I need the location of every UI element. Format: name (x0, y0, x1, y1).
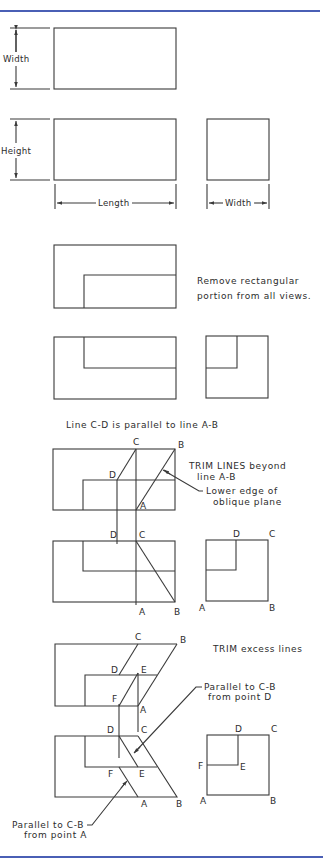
step5-top-point-f: F (112, 694, 117, 704)
step4-top-point-b: B (178, 440, 184, 450)
step4-side-point-d: D (233, 529, 240, 539)
step5-front-point-a: A (141, 799, 148, 809)
step5-note-a-line1: Parallel to C-B (12, 820, 84, 830)
step5-top-point-a: A (140, 705, 147, 715)
step3-top-view (54, 245, 176, 308)
step5-side-view (207, 735, 269, 795)
step4-side-view (206, 540, 268, 601)
step4-front-point-b: B (174, 607, 180, 617)
step5-front-point-b: B (176, 799, 182, 809)
step5-side-point-b: B (270, 796, 276, 806)
width-dimension-label: Width (3, 54, 29, 64)
step5-top-point-d: D (111, 665, 118, 675)
height-dimension-label: Height (1, 146, 32, 156)
step4-top-point-d: D (109, 470, 116, 480)
step4-top-point-c: C (133, 437, 139, 447)
step4-note-edge-line1: Lower edge of (206, 486, 278, 496)
step5-note-a-line2: from point A (24, 830, 87, 840)
step5-note-trim: TRIM excess lines (212, 644, 302, 654)
step5-leader-d (135, 687, 202, 752)
step5-front-view (55, 736, 177, 797)
step5-top-point-b: B (180, 635, 186, 645)
step5-side-point-f: F (198, 761, 203, 771)
step4-side-point-b: B (269, 603, 275, 613)
step5-side-point-a: A (200, 796, 207, 806)
step5-top-point-c: C (135, 632, 141, 642)
step5-leader-a-arrow (121, 781, 127, 788)
step4-note-edge-line2: oblique plane (213, 497, 282, 507)
step4-front-point-d: D (110, 530, 117, 540)
step5-front-point-e: E (139, 769, 145, 779)
step5-top-point-e: E (141, 665, 147, 675)
step5-leader-a (87, 782, 126, 825)
step3-note-line2: portion from all views. (197, 291, 311, 301)
step4-side-point-c: C (269, 529, 275, 539)
step5-note-d-line1: Parallel to C-B (204, 682, 276, 692)
step3-front-view (54, 337, 176, 399)
step4-leader-arrow (164, 470, 170, 474)
step4-top-point-a: A (140, 501, 147, 511)
step5-front-point-f: F (108, 769, 113, 779)
side-width-dimension-label: Width (225, 198, 251, 208)
step5-side-point-c: C (271, 724, 277, 734)
step4-side-point-a: A (199, 603, 206, 613)
step5-front-point-d: D (107, 725, 114, 735)
step4-note-trim-line1: TRIM LINES beyond (188, 461, 286, 471)
step5-front-point-c: C (141, 725, 147, 735)
step3-note-line1: Remove rectangular (197, 276, 299, 286)
step3-side-view (206, 336, 268, 398)
step2-side-view (207, 119, 269, 209)
step5-leader-d-arrow (134, 747, 140, 753)
step4-note-trim-line2: line A-B (197, 472, 236, 482)
drawing-canvas: Width Height Length Width Remove rectang… (0, 0, 330, 866)
step1-top-view (10, 28, 176, 89)
step5-side-point-e: E (240, 762, 246, 772)
step4-front-point-a: A (139, 607, 146, 617)
step4-front-point-c: C (139, 530, 145, 540)
step5-side-point-d: D (235, 724, 242, 734)
step5-note-d-line2: from point D (208, 692, 272, 702)
step2-front-view (10, 119, 176, 209)
step4-caption: Line C-D is parallel to line A-B (66, 420, 219, 430)
step4-front-view (53, 541, 175, 602)
length-dimension-label: Length (98, 198, 129, 208)
